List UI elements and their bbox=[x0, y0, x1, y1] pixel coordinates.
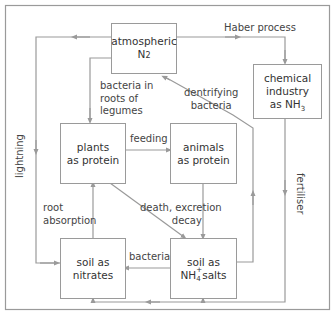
node-label: atmospheric bbox=[111, 35, 176, 48]
node-label: nitrates bbox=[73, 269, 114, 282]
label-line: absorption bbox=[43, 215, 96, 228]
node-chemical-industry: chemical industry as NH3 bbox=[253, 64, 322, 119]
node-label: as NH bbox=[270, 98, 301, 110]
haber-path bbox=[176, 37, 285, 63]
label-haber-process: Haber process bbox=[224, 22, 296, 35]
subscript: 4 bbox=[196, 273, 200, 286]
node-label: salts bbox=[202, 269, 226, 281]
label-line: decay bbox=[140, 215, 222, 228]
node-animals-protein: animals as protein bbox=[170, 123, 237, 184]
label-fertiliser: fertiliser bbox=[295, 173, 306, 215]
label-death-excretion-decay: death, excretion decay bbox=[140, 202, 222, 227]
nitrogen-cycle-diagram: atmospheric N2 chemical industry as NH3 … bbox=[0, 0, 335, 318]
label-bacteria-legumes: bacteria in roots of legumes bbox=[100, 80, 153, 118]
node-label: animals bbox=[177, 141, 230, 154]
node-label: as protein bbox=[67, 154, 120, 167]
label-denitrifying-bacteria: dentrifying bacteria bbox=[184, 87, 238, 112]
label-line: bacteria bbox=[184, 100, 238, 113]
label-lightning: lightning bbox=[14, 134, 25, 178]
subscript: 2 bbox=[145, 51, 150, 60]
node-label: plants bbox=[67, 141, 120, 154]
node-label: as protein bbox=[177, 154, 230, 167]
subscript: 3 bbox=[301, 105, 305, 113]
label-line: legumes bbox=[100, 105, 153, 118]
node-label: chemical bbox=[264, 72, 311, 85]
label-line: roots of bbox=[100, 93, 153, 106]
label-bacteria: bacteria bbox=[129, 251, 170, 264]
label-line: root bbox=[43, 202, 96, 215]
node-label: industry bbox=[264, 85, 311, 98]
label-line: death, excretion bbox=[140, 202, 222, 215]
node-label: soil as bbox=[73, 256, 114, 269]
node-atmospheric-n2: atmospheric N2 bbox=[111, 23, 177, 74]
node-soil-nitrates: soil as nitrates bbox=[60, 238, 126, 299]
node-label: NH bbox=[180, 269, 196, 281]
label-root-absorption: root absorption bbox=[43, 202, 96, 227]
label-feeding: feeding bbox=[130, 133, 168, 146]
label-line: bacteria in bbox=[100, 80, 153, 93]
node-soil-ammonium: soil as NH+4salts bbox=[170, 238, 237, 299]
node-label: soil as bbox=[180, 256, 226, 269]
node-plants-protein: plants as protein bbox=[60, 123, 126, 184]
label-line: dentrifying bbox=[184, 87, 238, 100]
